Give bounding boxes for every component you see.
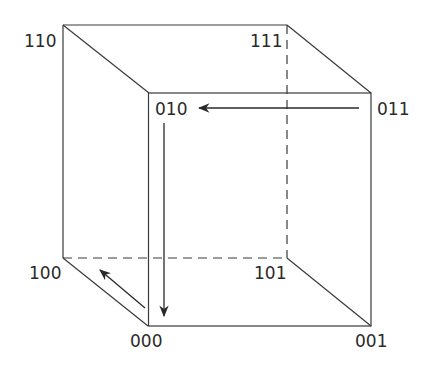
arrow-000-to-100 <box>100 270 145 308</box>
vertex-label-101: 101 <box>254 263 286 283</box>
edge-110-010 <box>63 25 149 93</box>
cube-diagram: 110 111 010 011 100 101 000 001 <box>0 0 430 369</box>
vertex-label-110: 110 <box>24 31 56 51</box>
edge-100-000 <box>63 258 148 326</box>
vertex-label-111: 111 <box>250 31 282 51</box>
vertex-label-001: 001 <box>355 331 387 351</box>
edge-101-001 <box>287 258 371 326</box>
vertex-label-000: 000 <box>130 331 162 351</box>
front-face <box>149 93 372 326</box>
vertex-label-100: 100 <box>29 263 61 283</box>
vertex-label-011: 011 <box>377 99 409 119</box>
vertex-label-010: 010 <box>155 99 187 119</box>
edge-111-011 <box>287 25 371 93</box>
